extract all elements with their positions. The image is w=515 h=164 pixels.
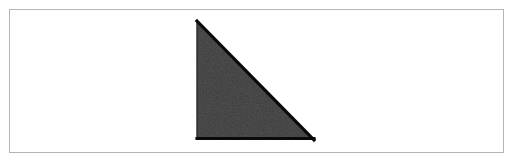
triangle-svg — [0, 0, 515, 164]
figure-canvas — [0, 0, 515, 164]
shape-layer — [0, 0, 515, 164]
